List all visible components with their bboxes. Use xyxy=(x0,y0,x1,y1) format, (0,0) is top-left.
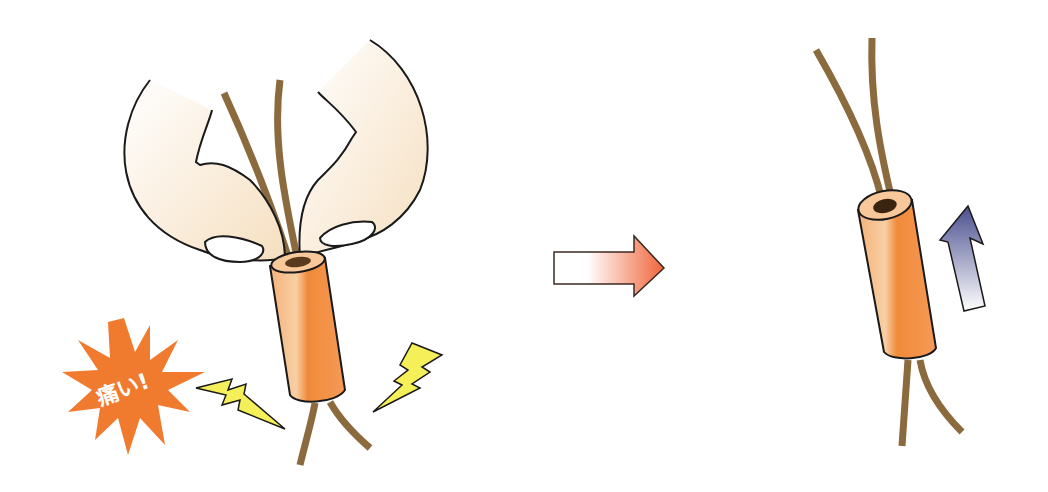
left-panel: 痛い! xyxy=(62,40,442,465)
tube-left xyxy=(270,248,345,401)
wires-top-right xyxy=(816,38,892,200)
illustration-stage: 痛い! xyxy=(0,0,1048,492)
lightning-bolt-right xyxy=(373,343,442,412)
tube-right xyxy=(856,186,936,359)
lightning-bolt-left xyxy=(196,379,285,429)
right-finger xyxy=(299,40,427,258)
transition-arrow xyxy=(554,236,664,296)
wires-bottom-left xyxy=(300,402,370,465)
slide-up-arrow xyxy=(940,206,985,311)
pain-burst: 痛い! xyxy=(62,318,205,455)
wires-bottom-right xyxy=(902,360,962,446)
right-panel xyxy=(816,38,985,446)
